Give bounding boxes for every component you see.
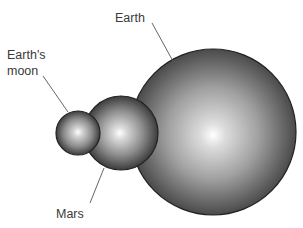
moon-label-line-1: Earth's	[7, 48, 46, 62]
earth-leader-line	[152, 23, 174, 63]
planet-size-diagram: Earth Earth's moon Mars	[0, 0, 303, 228]
moon-leader-line	[43, 76, 68, 112]
moon-sphere	[56, 111, 100, 155]
moon-label-line-2: moon	[7, 64, 38, 78]
mars-leader-line	[90, 168, 104, 203]
mars-label: Mars	[56, 207, 84, 221]
earth-label: Earth	[115, 11, 145, 25]
